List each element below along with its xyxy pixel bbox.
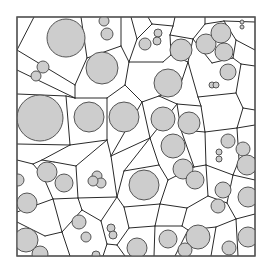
disk xyxy=(127,238,147,258)
disk xyxy=(17,193,37,213)
disk xyxy=(240,20,244,24)
disk xyxy=(129,170,159,200)
disk xyxy=(211,199,225,213)
disk xyxy=(139,38,151,50)
disk xyxy=(240,25,244,29)
disk xyxy=(32,246,48,262)
disk xyxy=(37,162,57,182)
disk xyxy=(72,215,86,229)
disk xyxy=(215,182,231,198)
disk xyxy=(211,23,231,43)
disk xyxy=(109,102,139,132)
disk xyxy=(74,102,104,132)
disk xyxy=(178,112,200,134)
disk xyxy=(186,171,204,189)
disk xyxy=(31,71,41,81)
disk xyxy=(221,134,235,148)
disk xyxy=(236,142,250,156)
disk xyxy=(222,241,236,255)
disk xyxy=(237,155,257,175)
disk xyxy=(86,52,118,84)
disk xyxy=(170,39,192,61)
disk xyxy=(101,28,113,40)
disk xyxy=(213,82,219,88)
disk xyxy=(154,69,182,97)
disk xyxy=(154,29,162,37)
disk xyxy=(37,61,49,73)
disk xyxy=(161,134,185,158)
disk xyxy=(220,64,236,80)
disk xyxy=(47,19,85,57)
disk xyxy=(17,95,63,141)
disk xyxy=(92,251,100,259)
disk xyxy=(153,37,161,45)
disk xyxy=(216,156,222,162)
disk xyxy=(88,176,98,186)
disk xyxy=(12,174,24,186)
voronoi-disk-diagram xyxy=(0,0,270,274)
disk xyxy=(55,174,73,192)
disk xyxy=(178,243,192,257)
disk xyxy=(159,230,177,248)
disk xyxy=(216,149,222,155)
disk xyxy=(81,232,91,242)
disk xyxy=(215,43,233,61)
disk xyxy=(109,231,117,239)
disk xyxy=(151,107,175,131)
